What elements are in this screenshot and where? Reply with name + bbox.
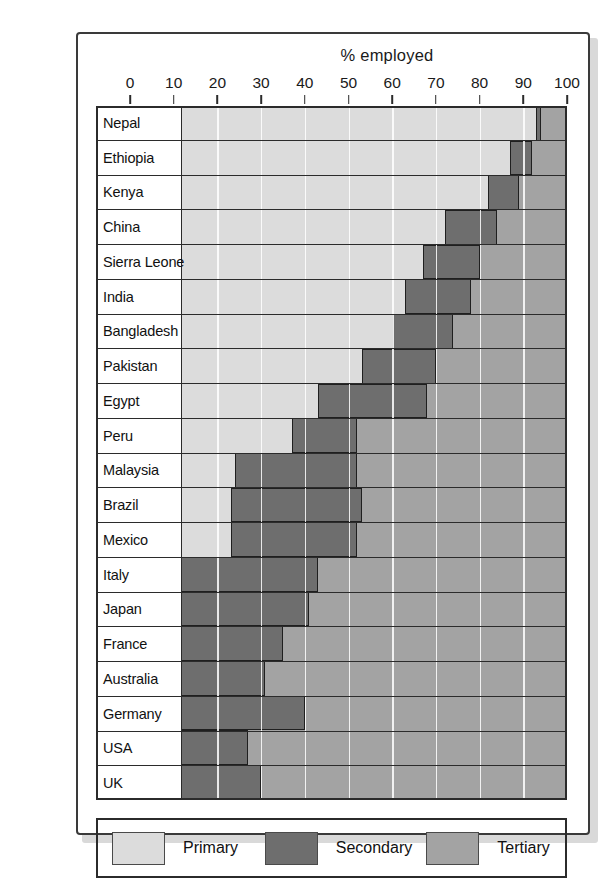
legend-label: Tertiary (497, 839, 549, 857)
bar-segment-secondary (445, 210, 497, 245)
bar-segment-secondary (231, 488, 362, 523)
legend-label: Secondary (336, 839, 413, 857)
legend-item-tertiary[interactable]: Tertiary (412, 832, 565, 865)
x-axis-tick-mark (217, 95, 219, 104)
category-label: USA (96, 732, 182, 767)
bar-segment-tertiary (283, 626, 567, 661)
bar-row (130, 314, 567, 349)
bar-segment-tertiary (532, 141, 567, 176)
bar-row (130, 279, 567, 314)
category-label-column: NepalEthiopiaKenyaChinaSierra LeoneIndia… (96, 106, 182, 800)
x-axis-tick-mark (479, 95, 481, 104)
bar-row (130, 522, 567, 557)
bar-row (130, 141, 567, 176)
bar-segment-tertiary (318, 557, 567, 592)
x-axis-tick-mark (435, 95, 437, 104)
bar-row (130, 696, 567, 731)
bar-segment-tertiary (519, 175, 567, 210)
bar-segment-tertiary (362, 488, 567, 523)
x-axis-tick-mark (566, 95, 568, 104)
bar-segment-tertiary (427, 384, 567, 419)
bar-segment-tertiary (471, 279, 567, 314)
bar-segment-tertiary (261, 765, 567, 800)
x-axis-tick-mark (348, 95, 350, 104)
legend-item-secondary[interactable]: Secondary (251, 832, 413, 865)
x-axis-tick-label: 0 (126, 74, 135, 92)
category-label: Egypt (96, 384, 182, 419)
x-axis-tick-label: 50 (340, 74, 357, 92)
bar-row (130, 106, 567, 141)
category-label: Ethiopia (96, 141, 182, 176)
bar-segment-secondary (362, 349, 436, 384)
bar-row (130, 384, 567, 419)
bar-segment-tertiary (541, 106, 567, 141)
bar-segment-secondary (161, 592, 310, 627)
legend-swatch-secondary (265, 832, 318, 865)
category-label: Bangladesh (96, 315, 182, 350)
legend-swatch-tertiary (426, 832, 479, 865)
bar-segment-primary (130, 175, 488, 210)
category-label: Japan (96, 593, 182, 628)
x-axis-tick-label: 30 (252, 74, 269, 92)
category-label: Italy (96, 558, 182, 593)
category-label: UK (96, 766, 182, 800)
bar-row (130, 210, 567, 245)
category-label: Mexico (96, 523, 182, 558)
x-axis-tick-label: 100 (554, 74, 580, 92)
legend-label: Primary (183, 839, 238, 857)
legend-item-primary[interactable]: Primary (98, 832, 251, 865)
bar-segment-tertiary (480, 245, 567, 280)
x-axis-tick-label: 10 (165, 74, 182, 92)
category-label: Nepal (96, 106, 182, 141)
bar-segment-tertiary (357, 522, 567, 557)
x-axis-tick-mark (173, 95, 175, 104)
chart-legend: PrimarySecondaryTertiary (96, 818, 567, 878)
x-axis-tick-mark (391, 95, 393, 104)
bar-segment-secondary (392, 314, 453, 349)
plot-area (130, 106, 567, 800)
bar-row (130, 557, 567, 592)
bar-segment-tertiary (305, 696, 567, 731)
category-label: Brazil (96, 488, 182, 523)
bar-segment-primary (130, 141, 510, 176)
x-axis-tick-label: 80 (471, 74, 488, 92)
category-label: Kenya (96, 176, 182, 211)
bar-row (130, 592, 567, 627)
x-axis-tick-mark (304, 95, 306, 104)
bar-segment-secondary (231, 522, 358, 557)
category-label: China (96, 210, 182, 245)
category-label: Australia (96, 662, 182, 697)
bar-row (130, 730, 567, 765)
bar-row (130, 765, 567, 800)
x-axis-tick-label: 60 (384, 74, 401, 92)
category-label: Pakistan (96, 349, 182, 384)
x-axis-tick-mark (129, 95, 131, 104)
x-axis-tick-mark (260, 95, 262, 104)
category-label: Germany (96, 697, 182, 732)
bar-segment-secondary (235, 453, 357, 488)
category-label: Malaysia (96, 454, 182, 489)
bar-segment-tertiary (265, 661, 567, 696)
bar-segment-secondary (488, 175, 519, 210)
bar-row (130, 661, 567, 696)
category-label: India (96, 280, 182, 315)
bar-row (130, 245, 567, 280)
x-axis-tick-label: 70 (427, 74, 444, 92)
x-axis-tick-label: 40 (296, 74, 313, 92)
legend-swatch-primary (112, 832, 165, 865)
category-label: Peru (96, 419, 182, 454)
x-axis: 0102030405060708090100 (130, 74, 567, 104)
bar-row (130, 418, 567, 453)
bar-row (130, 488, 567, 523)
chart-title-text: % employed (341, 46, 434, 64)
bar-segment-tertiary (436, 349, 567, 384)
bar-row (130, 626, 567, 661)
chart-card: % employed 0102030405060708090100 NepalE… (76, 32, 590, 835)
bar-segment-tertiary (357, 418, 567, 453)
category-label: France (96, 627, 182, 662)
bar-segment-secondary (318, 384, 427, 419)
bar-segment-secondary (423, 245, 480, 280)
bar-segment-tertiary (497, 210, 567, 245)
bar-segment-secondary (169, 557, 318, 592)
bar-segment-tertiary (453, 314, 567, 349)
